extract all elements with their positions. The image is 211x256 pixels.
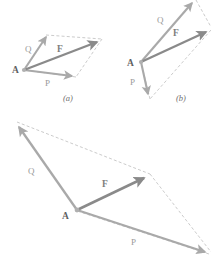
vector-p-arrow (77, 210, 205, 252)
panel-caption-b: (b) (176, 93, 186, 103)
vector-f-arrow (77, 178, 144, 210)
vector-p-arrow (24, 70, 72, 76)
vector-label-q: Q (28, 166, 35, 176)
dashed-edge (17, 122, 150, 174)
vector-label-f: F (173, 28, 179, 38)
origin-point-a (139, 60, 143, 64)
panel-c: A Q P F (17, 122, 211, 254)
origin-point-a (75, 208, 80, 213)
vector-label-f: F (57, 44, 63, 54)
vector-p-arrow (141, 62, 148, 94)
point-label-a: A (127, 58, 134, 68)
panel-b: A Q P F (b) (127, 0, 211, 103)
vector-label-q: Q (25, 44, 32, 54)
vector-label-q: Q (157, 15, 164, 25)
point-label-a: A (12, 65, 19, 75)
vector-label-p: P (131, 237, 136, 247)
vector-figure: A Q P F (a) A Q P F (b) (0, 0, 211, 256)
dashed-edge (150, 174, 211, 252)
origin-point-a (22, 68, 26, 72)
vector-label-f: F (102, 179, 108, 189)
vector-label-p: P (130, 77, 135, 87)
vector-q-arrow (141, 3, 192, 62)
panel-caption-a: (a) (63, 93, 73, 103)
vector-diagram-canvas: A Q P F (a) A Q P F (b) (0, 0, 211, 256)
vector-label-p: P (45, 78, 50, 88)
point-label-a: A (62, 211, 69, 221)
panel-c-dashed-lines (17, 122, 211, 254)
dashed-edge (46, 35, 102, 39)
dashed-edge (196, 0, 211, 27)
panel-a: A Q P F (a) (12, 35, 102, 103)
